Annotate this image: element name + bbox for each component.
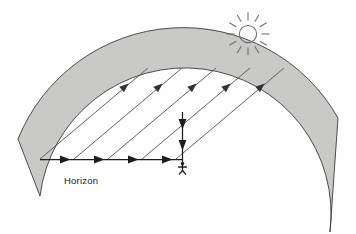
horizon-arrowhead-4 [162, 156, 173, 164]
solar-ray-5 [176, 68, 284, 159]
earth-surface-band [18, 28, 338, 232]
observer-leg-left [179, 171, 182, 175]
solar-horizon-diagram: Horizon [0, 0, 356, 234]
horizon-line-group [40, 156, 183, 164]
solar-ray-3 [108, 68, 216, 159]
horizon-label: Horizon [64, 175, 98, 186]
vertical-incidence-line-group [179, 112, 187, 162]
horizon-arrowhead-2 [94, 156, 105, 164]
observer-leg-right [183, 171, 186, 175]
horizon-arrowhead-3 [128, 156, 139, 164]
vertical-arrowhead-1 [179, 119, 187, 130]
diagram-canvas: Horizon [0, 0, 356, 234]
solar-ray-arrowheads [119, 81, 267, 92]
vertical-arrowhead-2 [179, 140, 187, 151]
earth-band-shape [18, 28, 338, 232]
solar-ray-4 [142, 68, 250, 159]
horizon-arrowhead-1 [60, 156, 71, 164]
observer-figure [179, 162, 187, 174]
